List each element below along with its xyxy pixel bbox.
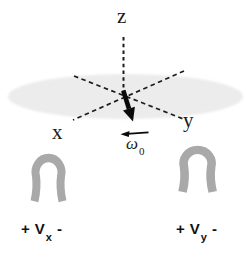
vx-minus-sign: - xyxy=(57,220,62,237)
vy-symbol: V xyxy=(190,220,200,237)
diagram-canvas xyxy=(0,0,247,256)
vy-minus-sign: - xyxy=(212,220,217,237)
omega0-label: ω0 xyxy=(126,135,144,155)
vy-subscript: y xyxy=(201,231,207,243)
voltage-x-label: +Vx- xyxy=(21,221,62,240)
vx-symbol: V xyxy=(35,220,45,237)
nmr-precession-diagram: z x y ω0 +Vx- +Vy- xyxy=(0,0,247,256)
vx-plus-sign: + xyxy=(21,220,30,237)
omega-subscript: 0 xyxy=(139,145,145,157)
coil-x-icon xyxy=(35,158,63,201)
y-axis-label: y xyxy=(183,110,194,131)
vy-plus-sign: + xyxy=(176,220,185,237)
z-axis-label: z xyxy=(117,6,126,27)
voltage-y-label: +Vy- xyxy=(176,221,217,240)
omega-symbol: ω xyxy=(126,134,138,153)
vx-subscript: x xyxy=(46,231,52,243)
coil-y-icon xyxy=(182,150,212,192)
x-axis-label: x xyxy=(52,122,63,143)
